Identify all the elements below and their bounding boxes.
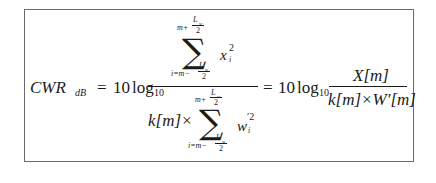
frac2-denominator: k[m]×W′[m]	[328, 91, 408, 108]
log-function-2: log	[297, 79, 319, 96]
num-term-sub: i	[229, 56, 231, 64]
num-sum-lower-2: 2	[202, 73, 206, 81]
den-sum-lower-2: 2	[219, 145, 223, 153]
lhs-symbol: CWR	[30, 79, 66, 96]
log-function: log	[132, 79, 154, 96]
coefficient: 10	[113, 79, 130, 96]
num-term: x	[220, 48, 227, 63]
log-base: 10	[154, 88, 164, 98]
coefficient-2: 10	[278, 79, 295, 96]
den-sum-lower-L: L	[216, 134, 220, 142]
lhs-subscript: dB	[75, 88, 86, 98]
den-prefix: k[m]×	[148, 112, 193, 129]
den-sum-lower-var: i=m−	[188, 142, 207, 150]
num-sum-lower-L: L	[199, 62, 203, 70]
equals-sign-2: =	[263, 79, 273, 96]
den-term-sup: ′2	[247, 112, 254, 122]
den-term: w	[237, 119, 247, 134]
frac2-numerator: X[m]	[351, 67, 391, 84]
den-term-sub: i	[248, 127, 250, 135]
main-fraction-bar	[148, 86, 258, 87]
equals-sign: =	[97, 79, 107, 96]
num-sum-lower-var: i=m−	[171, 70, 190, 78]
num-term-sup: 2	[229, 43, 234, 53]
den-sum-upper-L: L	[211, 89, 215, 97]
num-sum-upper-L: L	[193, 16, 197, 24]
frac2-bar	[329, 86, 407, 87]
